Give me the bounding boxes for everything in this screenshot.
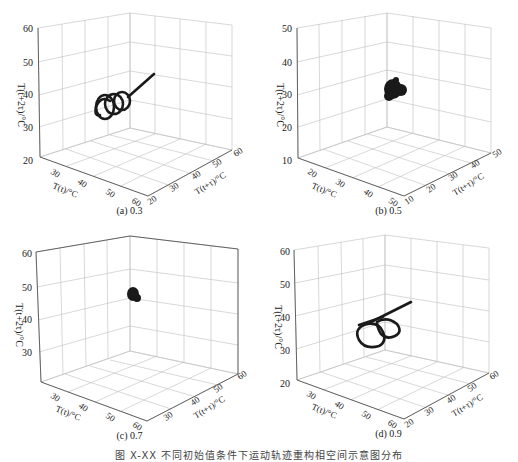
z-axis-label: T(t+2τ)/°C	[15, 83, 27, 127]
y-tick: 30	[161, 409, 175, 423]
y-axis-label: T(t+τ)/°C	[450, 392, 485, 419]
y-tick: 30	[167, 180, 181, 194]
z-tick: 10	[282, 155, 292, 166]
z-axis-label: T(t+2τ)/°C	[272, 305, 284, 349]
y-tick: 50	[490, 146, 504, 160]
trajectory-c	[127, 287, 141, 302]
x-tick: 30	[49, 390, 63, 404]
panel-caption: (c) 0.7	[0, 430, 259, 441]
z-axis-label: T(t+2τ)/°C	[13, 303, 25, 347]
panel-caption: (d) 0.9	[259, 428, 518, 439]
y-tick: 40	[468, 157, 482, 171]
y-tick: 50	[465, 380, 479, 394]
x-tick: 50	[104, 186, 118, 200]
plot-3d-a: 60 50 40 30 20 T(t+2τ)/°C 30 40 50 60 T(…	[0, 0, 259, 225]
chart-panel-b: 50 40 30 20 10 T(t+2τ)/°C 20 30 40 50 T(…	[259, 0, 518, 225]
y-tick: 20	[424, 181, 438, 195]
plot-3d-c: 60 50 40 30 T(t+2τ)/°C 30 40 50 60 T(t)/…	[0, 225, 259, 450]
figure-caption: 图 X-XX 不同初始值条件下运动轨迹重构相空间示意图分布	[0, 447, 518, 462]
x-tick: 30	[334, 176, 348, 190]
z-tick: 60	[23, 23, 33, 34]
chart-panel-c: 60 50 40 30 T(t+2τ)/°C 30 40 50 60 T(t)/…	[0, 225, 259, 450]
panel-caption: (a) 0.3	[0, 205, 259, 216]
trajectory-b	[384, 77, 407, 101]
z-tick: 50	[23, 57, 33, 68]
x-tick: 40	[362, 186, 376, 200]
z-tick: 50	[280, 279, 290, 290]
x-tick: 50	[104, 410, 118, 424]
x-tick: 30	[49, 166, 63, 180]
y-tick: 40	[444, 392, 458, 406]
plot-3d-b: 50 40 30 20 10 T(t+2τ)/°C 20 30 40 50 T(…	[259, 0, 518, 225]
z-tick: 40	[282, 57, 292, 68]
y-tick: 40	[189, 168, 203, 182]
z-tick: 50	[22, 282, 32, 293]
z-tick: 60	[280, 246, 290, 257]
y-tick: 40	[188, 394, 202, 408]
y-tick: 50	[210, 156, 224, 170]
y-tick: 60	[235, 368, 249, 382]
x-tick: 30	[305, 388, 319, 402]
y-tick: 50	[211, 381, 225, 395]
z-tick: 20	[280, 378, 290, 389]
trajectory-d	[357, 302, 411, 347]
trajectory-a	[96, 74, 155, 119]
z-tick: 20	[23, 155, 33, 166]
x-tick: 50	[360, 408, 374, 422]
plot-3d-d: 60 50 40 30 20 T(t+2τ)/°C 30 40 50 60 T(…	[259, 225, 518, 450]
y-tick: 60	[487, 368, 501, 382]
x-axis-label: T(t)/°C	[51, 181, 79, 200]
z-tick: 60	[22, 248, 32, 259]
chart-panel-d: 60 50 40 30 20 T(t+2τ)/°C 30 40 50 60 T(…	[259, 225, 518, 450]
y-tick: 30	[422, 404, 436, 418]
z-tick: 50	[282, 23, 292, 34]
x-tick: 20	[306, 166, 320, 180]
panel-caption: (b) 0.5	[259, 205, 518, 216]
chart-panel-a: 60 50 40 30 20 T(t+2τ)/°C 30 40 50 60 T(…	[0, 0, 259, 225]
z-axis-label: T(t+2τ)/°C	[274, 83, 286, 127]
z-tick: 30	[22, 347, 32, 358]
x-tick: 40	[76, 176, 90, 190]
y-tick: 30	[446, 169, 460, 183]
y-tick: 60	[231, 145, 245, 159]
